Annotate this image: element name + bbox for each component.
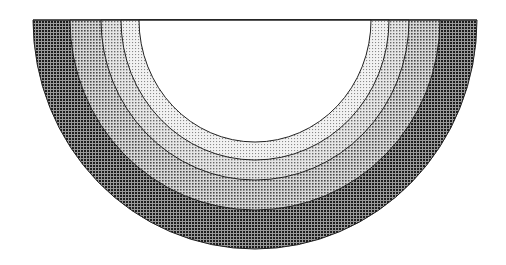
diagram-canvas <box>0 0 506 265</box>
semicircle-layers-diagram <box>0 0 506 265</box>
layer-group <box>33 20 477 249</box>
